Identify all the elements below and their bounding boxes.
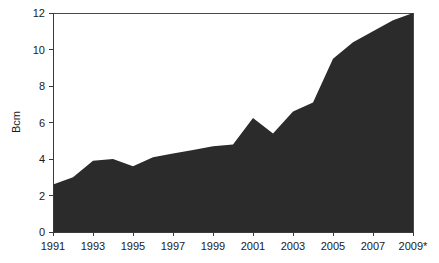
x-tick-label: 1999 <box>201 240 225 252</box>
y-tick-label: 12 <box>33 7 45 19</box>
x-tick-label: 2007 <box>361 240 385 252</box>
area-chart: 024681012 199119931995199719992001200320… <box>0 0 439 263</box>
x-tick-label: 1995 <box>121 240 145 252</box>
y-tick-label: 4 <box>39 153 45 165</box>
y-tick-label: 10 <box>33 44 45 56</box>
x-tick-label: 1993 <box>81 240 105 252</box>
x-tick-label: 2003 <box>281 240 305 252</box>
y-axis-title: Bcm <box>10 111 22 133</box>
x-tick-label: 1997 <box>161 240 185 252</box>
y-tick-label: 6 <box>39 117 45 129</box>
y-tick-label: 8 <box>39 80 45 92</box>
x-tick-label: 2009* <box>399 240 428 252</box>
x-tick-label: 2001 <box>241 240 265 252</box>
y-axis-ticks: 024681012 <box>33 7 53 238</box>
y-tick-label: 0 <box>39 226 45 238</box>
x-tick-label: 2005 <box>321 240 345 252</box>
x-tick-label: 1991 <box>41 240 65 252</box>
chart-canvas: 024681012 199119931995199719992001200320… <box>0 0 439 263</box>
x-axis-ticks: 1991199319951997199920012003200520072009… <box>41 232 428 252</box>
y-tick-label: 2 <box>39 190 45 202</box>
